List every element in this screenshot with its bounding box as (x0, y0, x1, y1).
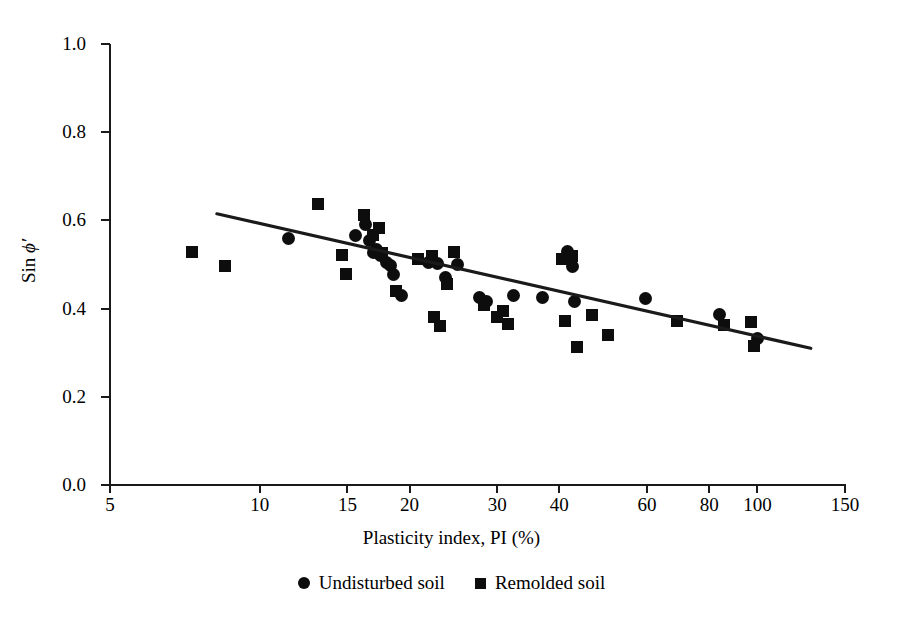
y-tick-mark (101, 396, 110, 398)
data-point-square (312, 198, 324, 210)
data-point-circle (536, 291, 549, 304)
data-point-square (219, 260, 231, 272)
legend-circle-icon (298, 577, 310, 589)
y-tick-mark (101, 219, 110, 221)
chart-legend: Undisturbed soilRemolded soil (0, 572, 903, 594)
x-tick-mark (558, 484, 560, 493)
x-tick-mark (409, 484, 411, 493)
y-axis-line (109, 44, 111, 487)
x-tick-label: 150 (815, 495, 875, 514)
x-tick-mark (259, 484, 261, 493)
legend-square-icon (475, 578, 486, 589)
x-tick-mark (708, 484, 710, 493)
data-point-square (358, 209, 370, 221)
y-axis-title-symbol: ϕ′ (18, 239, 39, 253)
x-tick-mark (346, 484, 348, 493)
y-tick-label: 0.6 (46, 210, 86, 229)
data-point-circle (282, 232, 295, 245)
y-tick-label: 1.0 (46, 34, 86, 53)
y-tick-label: 0.0 (46, 475, 86, 494)
y-tick-mark (101, 43, 110, 45)
data-point-square (745, 316, 757, 328)
data-point-square (426, 250, 438, 262)
legend-item-1: Undisturbed soil (298, 572, 445, 594)
x-tick-mark (646, 484, 648, 493)
y-tick-label: 0.2 (46, 387, 86, 406)
data-point-square (373, 222, 385, 234)
x-tick-label: 20 (380, 495, 440, 514)
data-point-square (434, 320, 446, 332)
x-axis-line (109, 484, 846, 486)
data-point-square (336, 249, 348, 261)
data-point-square (186, 246, 198, 258)
x-tick-label: 60 (617, 495, 677, 514)
data-point-circle (349, 229, 362, 242)
x-tick-label: 40 (529, 495, 589, 514)
data-point-square (390, 285, 402, 297)
y-axis-title-prefix: Sin (18, 253, 39, 283)
data-point-circle (451, 258, 464, 271)
data-point-square (718, 319, 730, 331)
x-tick-label: 15 (317, 495, 377, 514)
y-axis-title: Sin ϕ′ (18, 191, 40, 331)
data-point-circle (507, 289, 520, 302)
x-tick-mark (496, 484, 498, 493)
data-point-square (376, 247, 388, 259)
y-tick-label: 0.8 (46, 122, 86, 141)
data-point-square (497, 305, 509, 317)
data-point-square (502, 318, 514, 330)
x-tick-mark (756, 484, 758, 493)
data-point-square (559, 315, 571, 327)
data-point-square (478, 299, 490, 311)
scatter-chart-figure: 0.00.20.40.60.81.0 510152030406080100150… (0, 0, 903, 626)
x-tick-label: 30 (467, 495, 527, 514)
data-point-square (671, 315, 683, 327)
x-tick-mark (844, 484, 846, 493)
data-point-square (748, 340, 760, 352)
data-point-square (448, 246, 460, 258)
data-point-circle (639, 292, 652, 305)
y-tick-mark (101, 308, 110, 310)
data-point-circle (387, 268, 400, 281)
data-point-square (571, 341, 583, 353)
data-point-square (340, 268, 352, 280)
y-tick-label: 0.4 (46, 299, 86, 318)
x-tick-label: 5 (80, 495, 140, 514)
y-tick-mark (101, 131, 110, 133)
data-point-circle (568, 295, 581, 308)
legend-item-2: Remolded soil (475, 572, 605, 594)
data-point-square (602, 329, 614, 341)
x-tick-mark (109, 484, 111, 493)
data-point-square (586, 309, 598, 321)
data-point-square (566, 250, 578, 262)
x-axis-title: Plasticity index, PI (%) (0, 527, 903, 549)
legend-label: Remolded soil (495, 572, 605, 594)
data-point-square (441, 278, 453, 290)
legend-label: Undisturbed soil (319, 572, 445, 594)
x-tick-label: 10 (230, 495, 290, 514)
data-point-square (412, 253, 424, 265)
x-tick-label: 100 (727, 495, 787, 514)
